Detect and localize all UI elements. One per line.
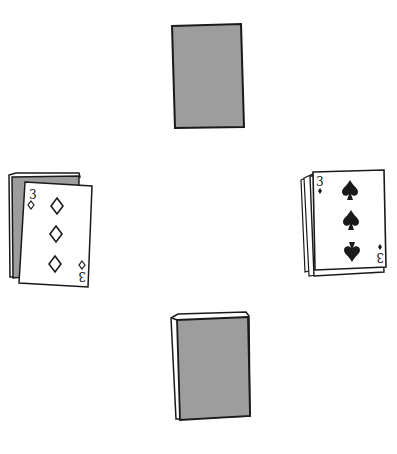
east-card-face[interactable]: 3 3 xyxy=(313,170,386,270)
east-card-rank-inverted: 3 xyxy=(376,250,384,264)
south-deck[interactable] xyxy=(171,312,250,420)
east-card-rank: 3 xyxy=(316,175,324,189)
west-card-rank-inverted: 3 xyxy=(78,269,86,283)
west-deck[interactable]: 3 3 xyxy=(9,173,92,287)
east-deck[interactable]: 3 3 xyxy=(301,170,386,276)
west-card-face[interactable]: 3 3 xyxy=(19,182,92,287)
north-card-back[interactable] xyxy=(172,24,244,128)
card-table: 3 3 3 3 xyxy=(0,0,397,454)
west-card-rank: 3 xyxy=(29,188,37,202)
